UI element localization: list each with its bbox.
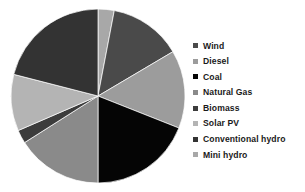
legend-item-label: Wind — [203, 42, 224, 51]
legend-swatch-icon — [193, 152, 198, 157]
legend-item[interactable]: Coal — [193, 69, 305, 85]
legend-item-label: Mini hydro — [203, 151, 247, 160]
legend-item[interactable]: Conventional hydro — [193, 132, 305, 148]
legend-item[interactable]: Solar PV — [193, 116, 305, 132]
pie-chart-figure: WindDieselCoalNatural GasBiomassSolar PV… — [0, 0, 305, 192]
legend-item[interactable]: Natural Gas — [193, 85, 305, 101]
legend-item[interactable]: Diesel — [193, 54, 305, 70]
pie-chart-svg — [10, 8, 186, 184]
pie-slice-group — [11, 9, 185, 183]
chart-legend: WindDieselCoalNatural GasBiomassSolar PV… — [193, 38, 305, 163]
legend-swatch-icon — [193, 59, 198, 64]
legend-item-label: Solar PV — [203, 119, 239, 128]
legend-swatch-icon — [193, 137, 198, 142]
legend-item-label: Conventional hydro — [203, 135, 286, 144]
legend-item[interactable]: Mini hydro — [193, 147, 305, 163]
legend-item-label: Natural Gas — [203, 88, 252, 97]
legend-swatch-icon — [193, 74, 198, 79]
legend-item[interactable]: Wind — [193, 38, 305, 54]
legend-item-label: Diesel — [203, 57, 229, 66]
pie-chart-plot-area — [10, 8, 186, 184]
legend-item-label: Biomass — [203, 104, 240, 113]
legend-item[interactable]: Biomass — [193, 100, 305, 116]
legend-item-label: Coal — [203, 73, 222, 82]
legend-swatch-icon — [193, 90, 198, 95]
legend-swatch-icon — [193, 43, 198, 48]
legend-swatch-icon — [193, 106, 198, 111]
legend-swatch-icon — [193, 121, 198, 126]
